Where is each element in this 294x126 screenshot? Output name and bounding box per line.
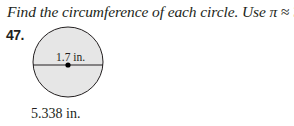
pi-value: 3.14.	[293, 3, 294, 20]
answer-text: 5.338 in.	[31, 106, 80, 122]
instruction-text: Find the circumference of each circle. U…	[7, 3, 270, 20]
problem-number: 47.	[6, 27, 24, 43]
diameter-label: 1.7 in.	[56, 51, 85, 63]
instructions: Find the circumference of each circle. U…	[7, 3, 294, 21]
center-point	[65, 62, 70, 67]
circle-figure	[30, 25, 106, 101]
approx-symbol: ≈	[277, 3, 293, 20]
